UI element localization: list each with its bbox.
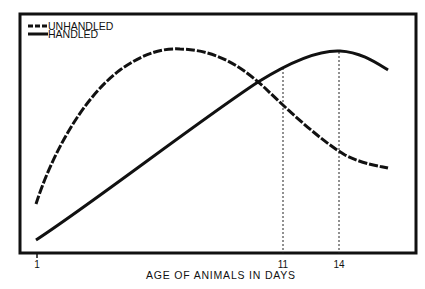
series-handled [36, 51, 388, 240]
legend: UNHANDLED HANDLED [28, 20, 114, 40]
series-unhandled [36, 49, 388, 204]
x-tick-label-1: 1 [34, 259, 40, 270]
chart: UNHANDLED HANDLED 1 11 14 AGE OF ANIMALS… [0, 0, 425, 289]
x-tick-label-14: 14 [333, 259, 345, 270]
plot-frame [20, 14, 416, 253]
x-axis-label: AGE OF ANIMALS IN DAYS [146, 269, 296, 281]
legend-label-handled: HANDLED [48, 28, 99, 40]
